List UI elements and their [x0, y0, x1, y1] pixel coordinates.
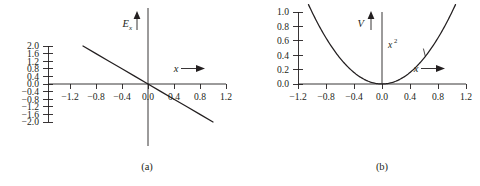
chart-b-y-axis-title: V [358, 18, 366, 29]
chart-b-x-tick-label: −0.4 [345, 91, 363, 102]
chart-b-tick-marks [293, 12, 466, 89]
chart-b-curve-annotation-exponent: 2 [394, 37, 397, 44]
chart-b-y-tick-label: 0.4 [277, 50, 289, 61]
chart-a-y-axis-title-group: E x [122, 11, 141, 32]
chart-b-y-tick-label: 0.6 [277, 35, 289, 46]
chart-a-y-arrow-head [134, 11, 141, 19]
chart-b-y-tick-label: 0.0 [277, 78, 289, 89]
chart-a-x-tick-label: 0.8 [194, 91, 206, 102]
chart-b-svg: −1.2−0.8−0.40.00.40.81.20.00.20.40.60.81… [240, 0, 480, 150]
chart-b-annotation-leader-line [423, 49, 425, 57]
chart-b-x-axis-title: x [413, 63, 419, 74]
chart-b-y-arrow-head [368, 11, 375, 19]
chart-b-x-tick-label: 0.0 [376, 91, 388, 102]
chart-b-x-tick-label: −1.2 [289, 91, 307, 102]
chart-a-x-tick-label: 0.0 [142, 91, 154, 102]
chart-b-x-tick-label: −0.8 [317, 91, 335, 102]
chart-b-tick-labels: −1.2−0.8−0.40.00.40.81.20.00.20.40.60.81… [277, 6, 472, 101]
chart-a-x-tick-label: −0.8 [87, 91, 105, 102]
chart-b-curve-annotation: x [387, 40, 393, 50]
chart-b-y-tick-label: 1.0 [277, 6, 289, 17]
chart-a-x-axis-title: x [173, 63, 179, 74]
figure-root: −1.2−0.8−0.40.00.40.81.2−2.0−1.6−1.2−0.8… [0, 0, 480, 186]
chart-b-x-arrow-head [436, 65, 445, 72]
chart-a-x-arrow-head [196, 65, 205, 72]
chart-panel-b: −1.2−0.8−0.40.00.40.81.20.00.20.40.60.81… [240, 0, 480, 186]
chart-a-x-tick-label: −1.2 [61, 91, 79, 102]
chart-b-y-tick-label: 0.2 [277, 64, 289, 75]
chart-b-curve-annotation-group: x 2 [387, 37, 425, 57]
chart-panel-a: −1.2−0.8−0.40.00.40.81.2−2.0−1.6−1.2−0.8… [0, 0, 240, 186]
chart-a-y-tick-label: 2.0 [27, 40, 39, 51]
chart-b-x-tick-label: 0.4 [404, 91, 416, 102]
chart-a-x-tick-label: 1.2 [220, 91, 232, 102]
chart-b-x-tick-label: 0.8 [432, 91, 444, 102]
chart-a-x-axis-title-group: x [173, 63, 205, 74]
chart-b-y-axis-title-group: V [358, 11, 375, 30]
chart-b-x-axis-title-group: x [413, 63, 445, 74]
panel-b-caption: (b) [376, 161, 388, 172]
chart-a-x-tick-label: −0.4 [113, 91, 131, 102]
chart-b-y-tick-label: 0.8 [277, 21, 289, 32]
chart-a-svg: −1.2−0.8−0.40.00.40.81.2−2.0−1.6−1.2−0.8… [0, 0, 240, 150]
chart-b-x-tick-label: 1.2 [460, 91, 472, 102]
chart-a-x-tick-label: 0.4 [168, 91, 180, 102]
chart-a-y-axis-title-subscript: x [128, 24, 133, 32]
panel-a-caption: (a) [141, 161, 153, 172]
